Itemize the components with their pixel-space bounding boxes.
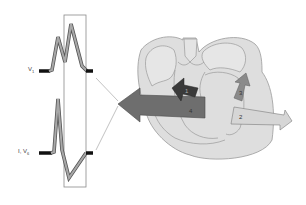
lead-label-v1-sub: 1: [32, 69, 34, 74]
i-v6-ecg-trace: [39, 99, 93, 178]
v1-ecg-trace: [39, 24, 93, 71]
connector-line-lower: [96, 106, 118, 150]
lead-label-i-v6-sub: 6: [27, 151, 29, 156]
lead-label-i-v6: I, V6: [18, 148, 29, 156]
heart-diagram: 4 1 3 2: [0, 0, 306, 205]
lead-label-i-v6-main: I, V: [18, 148, 27, 154]
lead-label-v1: V1: [28, 66, 34, 74]
connector-line-upper: [96, 78, 118, 101]
